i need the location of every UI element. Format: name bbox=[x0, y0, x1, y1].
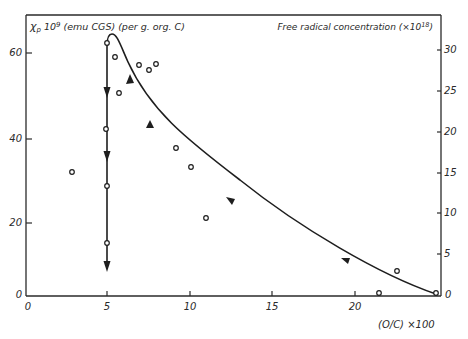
data-point bbox=[174, 146, 179, 151]
svg-text:0: 0 bbox=[25, 301, 31, 312]
arrow-icon bbox=[226, 197, 235, 205]
svg-text:15: 15 bbox=[266, 301, 279, 312]
data-point bbox=[147, 68, 152, 73]
svg-text:25: 25 bbox=[444, 85, 457, 96]
data-point bbox=[137, 63, 142, 68]
x-ticks bbox=[107, 291, 355, 296]
y-right-axis-title: Free radical concentration (×1018) bbox=[277, 21, 433, 32]
y-left-ticks bbox=[26, 53, 32, 223]
arrow-icon bbox=[104, 87, 111, 98]
svg-text:5: 5 bbox=[104, 301, 110, 312]
direction-arrows bbox=[104, 74, 351, 272]
arrow-icon bbox=[146, 120, 154, 128]
svg-text:0: 0 bbox=[16, 289, 22, 300]
svg-text:20: 20 bbox=[349, 301, 362, 312]
data-point bbox=[204, 216, 209, 221]
svg-text:0: 0 bbox=[445, 289, 451, 300]
data-point bbox=[105, 184, 110, 189]
arrow-icon bbox=[341, 258, 350, 264]
data-point bbox=[154, 62, 159, 67]
data-point bbox=[105, 241, 110, 246]
chart: 60 40 20 0 30 25 20 15 10 5 0 0 5 10 15 … bbox=[0, 0, 468, 339]
arrow-icon bbox=[126, 74, 134, 84]
svg-text:10: 10 bbox=[444, 207, 457, 218]
data-point bbox=[113, 55, 118, 60]
data-point bbox=[434, 291, 439, 296]
plot-frame bbox=[26, 15, 441, 296]
data-points bbox=[70, 41, 439, 296]
svg-text:60: 60 bbox=[9, 47, 22, 58]
y-left-axis-title: χp 109 (emu CGS) (per g. org. C) bbox=[29, 20, 185, 34]
svg-text:40: 40 bbox=[9, 133, 22, 144]
data-point bbox=[104, 127, 109, 132]
svg-text:30: 30 bbox=[444, 44, 457, 55]
svg-text:20: 20 bbox=[444, 126, 457, 137]
data-point bbox=[189, 165, 194, 170]
y-right-tick-labels: 30 25 20 15 10 5 0 bbox=[444, 44, 457, 300]
data-point bbox=[377, 291, 382, 296]
arrow-icon bbox=[104, 151, 111, 162]
trend-curve bbox=[107, 34, 436, 294]
svg-text:15: 15 bbox=[444, 167, 457, 178]
svg-text:5: 5 bbox=[444, 248, 450, 259]
data-point bbox=[395, 269, 400, 274]
data-point bbox=[70, 170, 75, 175]
x-tick-labels: 0 5 10 15 20 bbox=[25, 301, 362, 312]
data-point bbox=[117, 91, 122, 96]
x-axis-title: (O/C) ×100 bbox=[378, 319, 435, 330]
svg-text:10: 10 bbox=[184, 301, 197, 312]
y-left-tick-labels: 60 40 20 0 bbox=[9, 47, 22, 300]
svg-text:20: 20 bbox=[9, 217, 22, 228]
arrow-icon bbox=[104, 261, 111, 272]
data-point bbox=[105, 41, 110, 46]
